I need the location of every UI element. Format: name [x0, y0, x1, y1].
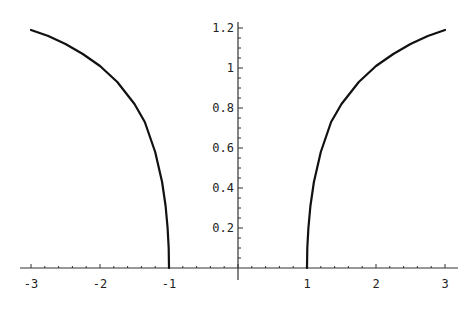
- x-tick-label: -1: [162, 277, 176, 291]
- y-tick-label: 0.2: [212, 221, 234, 235]
- axes: [20, 22, 458, 280]
- plot-area: -3-2-11230.20.40.60.811.2: [0, 0, 469, 310]
- y-tick-label: 1.2: [212, 21, 234, 35]
- x-tick-label: 1: [303, 277, 310, 291]
- x-tick-label: 2: [372, 277, 379, 291]
- y-tick-label: 0.4: [212, 181, 234, 195]
- x-tick-label: -2: [93, 277, 107, 291]
- curve-right: [307, 30, 445, 268]
- y-tick-label: 0.6: [212, 141, 234, 155]
- y-tick-label: 1: [227, 61, 234, 75]
- y-tick-label: 0.8: [212, 101, 234, 115]
- x-tick-label: -3: [24, 277, 38, 291]
- x-tick-label: 3: [441, 277, 448, 291]
- tick-labels: -3-2-11230.20.40.60.811.2: [24, 21, 449, 291]
- curve-left: [31, 30, 169, 268]
